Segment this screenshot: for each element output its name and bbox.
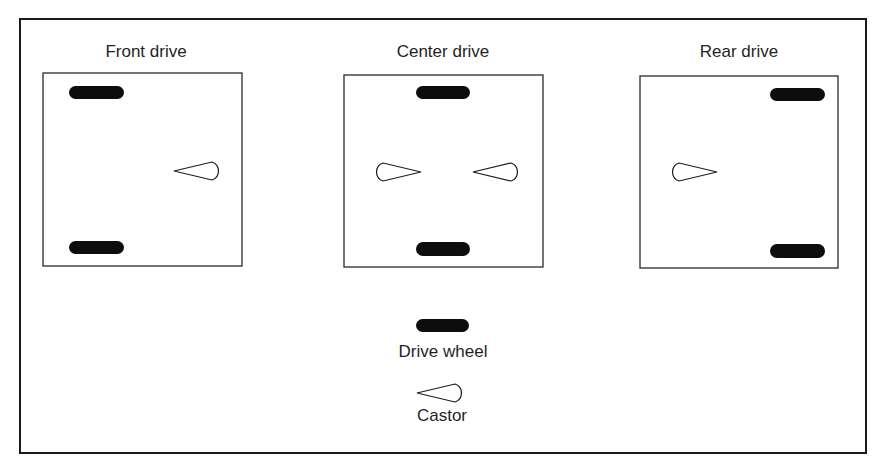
legend-castor-label: Castor xyxy=(417,406,467,425)
legend: Drive wheel Castor xyxy=(399,319,488,425)
drive-wheel-icon xyxy=(416,86,470,99)
drive-configuration-diagram: Front drive Center drive Rear drive Driv… xyxy=(0,0,883,469)
center-drive-title: Center drive xyxy=(397,42,490,61)
center-drive-panel: Center drive xyxy=(344,42,543,267)
front-drive-title: Front drive xyxy=(105,42,186,61)
drive-wheel-icon xyxy=(770,88,825,101)
front-drive-panel: Front drive xyxy=(43,42,242,266)
legend-drive-wheel-icon xyxy=(416,319,469,332)
drive-wheel-icon xyxy=(770,244,825,258)
drive-wheel-icon xyxy=(69,241,124,254)
legend-drive-wheel-label: Drive wheel xyxy=(399,342,488,361)
legend-castor-icon xyxy=(417,384,461,402)
rear-drive-panel: Rear drive xyxy=(640,42,838,268)
rear-drive-chassis xyxy=(640,76,838,268)
rear-drive-title: Rear drive xyxy=(700,42,778,61)
drive-wheel-icon xyxy=(69,86,124,99)
drive-wheel-icon xyxy=(416,242,470,256)
